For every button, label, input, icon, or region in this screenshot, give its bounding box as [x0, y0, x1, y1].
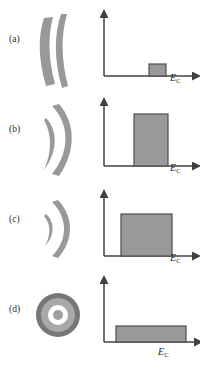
panel-d-x-axis-label: EC — [158, 346, 169, 357]
crescent-outer-arc-icon — [52, 104, 72, 176]
crescent-inner-icon — [44, 118, 55, 170]
panel-a-dos-plot: EC — [96, 0, 200, 90]
panel-a-label: (a) — [9, 34, 20, 44]
panel-a: (a) EC — [0, 0, 200, 90]
panel-c-label: (c) — [9, 214, 20, 224]
panel-c: (c) EC — [0, 180, 200, 270]
panel-a-xlabel-sub: C — [176, 77, 181, 85]
panel-b-x-axis-label: EC — [170, 162, 181, 173]
arc-inner-icon — [44, 214, 53, 246]
well-layer-right-icon — [56, 14, 68, 88]
dos-bar — [134, 114, 168, 166]
well-layer-left-icon — [40, 17, 55, 86]
arc-outer-icon — [52, 200, 70, 258]
panel-b-label: (b) — [9, 124, 20, 134]
panel-c-structure-arc — [30, 180, 88, 270]
quantum-confinement-figure: (a) EC (b) — [0, 0, 200, 369]
dot-core-icon — [53, 310, 63, 320]
panel-c-dos-plot: EC — [96, 180, 200, 270]
panel-b-structure-crescent — [30, 90, 88, 180]
dos-bar — [121, 214, 172, 256]
panel-c-x-axis-label: EC — [170, 252, 181, 263]
panel-b-dos-plot: EC — [96, 90, 200, 180]
panel-c-xlabel-sub: C — [176, 257, 181, 265]
panel-a-structure-quantum-well — [30, 0, 88, 90]
dos-bar — [116, 326, 186, 342]
panel-a-x-axis-label: EC — [170, 72, 181, 83]
panel-d-dos-plot: EC — [96, 270, 200, 360]
panel-b: (b) EC — [0, 90, 200, 180]
panel-d-structure-quantum-dot — [30, 270, 88, 360]
panel-b-xlabel-sub: C — [176, 167, 181, 175]
panel-d: (d) EC — [0, 270, 200, 369]
dos-bar — [149, 64, 166, 76]
panel-d-xlabel-sub: C — [164, 351, 169, 359]
panel-d-label: (d) — [9, 304, 20, 314]
